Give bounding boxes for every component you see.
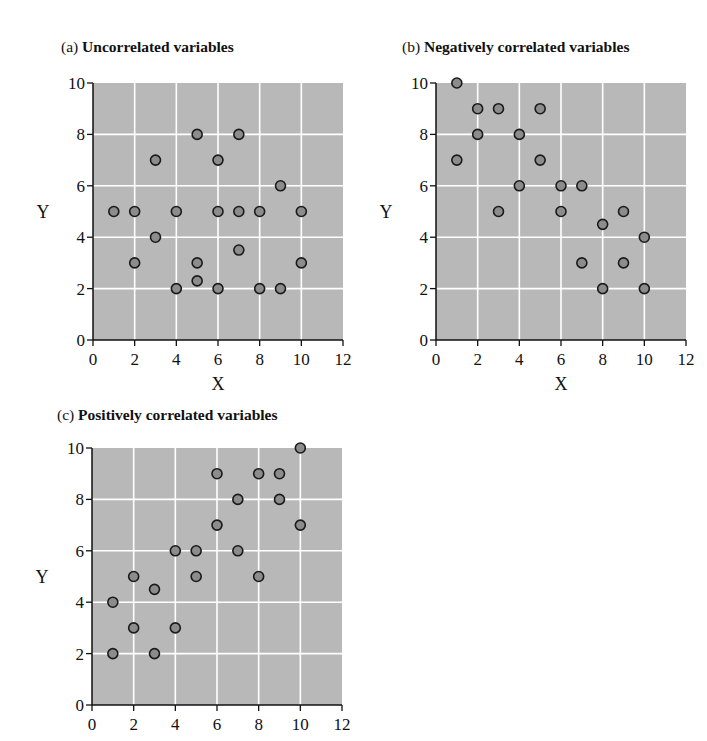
x-tick-label: 10 — [636, 350, 653, 369]
x-tick-label: 6 — [557, 350, 566, 369]
data-point — [535, 104, 545, 114]
data-point — [150, 649, 160, 659]
x-tick-label: 4 — [515, 350, 524, 369]
x-tick-label: 0 — [88, 715, 97, 734]
data-point — [275, 494, 285, 504]
data-point — [577, 258, 587, 268]
data-point — [150, 584, 160, 594]
data-point — [494, 104, 504, 114]
data-point — [108, 649, 118, 659]
data-point — [639, 284, 649, 294]
data-point — [452, 78, 462, 88]
data-point — [452, 155, 462, 165]
x-tick-label: 6 — [213, 715, 222, 734]
chart-panel-c: (c) Positively correlated variables 0246… — [0, 0, 360, 741]
y-tick-label: 8 — [76, 490, 85, 509]
y-axis-label: Y — [380, 202, 393, 222]
data-point — [233, 546, 243, 556]
data-point — [191, 546, 201, 556]
data-point — [598, 284, 608, 294]
y-tick-label: 6 — [420, 177, 429, 196]
y-tick-label: 2 — [420, 280, 429, 299]
data-point — [598, 219, 608, 229]
y-tick-label: 0 — [420, 331, 429, 350]
data-point — [212, 469, 222, 479]
data-point — [275, 469, 285, 479]
data-point — [494, 207, 504, 217]
x-tick-label: 2 — [129, 715, 138, 734]
y-tick-label: 4 — [420, 228, 429, 247]
data-point — [170, 546, 180, 556]
data-point — [254, 469, 264, 479]
data-point — [473, 129, 483, 139]
data-point — [556, 207, 566, 217]
data-point — [577, 181, 587, 191]
data-point — [129, 572, 139, 582]
data-point — [212, 520, 222, 530]
data-point — [619, 207, 629, 217]
data-point — [108, 597, 118, 607]
data-point — [514, 181, 524, 191]
data-point — [639, 232, 649, 242]
x-tick-label: 4 — [171, 715, 180, 734]
x-tick-label: 2 — [473, 350, 482, 369]
data-point — [514, 129, 524, 139]
y-tick-label: 8 — [420, 125, 429, 144]
data-point — [295, 520, 305, 530]
data-point — [233, 494, 243, 504]
y-tick-label: 4 — [76, 593, 85, 612]
x-tick-label: 8 — [254, 715, 263, 734]
y-tick-label: 10 — [67, 439, 84, 458]
y-tick-label: 6 — [76, 542, 85, 561]
scatter-plot-c: 0246810024681012Y — [0, 0, 360, 741]
data-point — [619, 258, 629, 268]
x-tick-label: 0 — [432, 350, 441, 369]
x-tick-label: 8 — [598, 350, 607, 369]
data-point — [556, 181, 566, 191]
data-point — [170, 623, 180, 633]
x-tick-label: 10 — [292, 715, 309, 734]
data-point — [129, 623, 139, 633]
y-tick-label: 10 — [411, 74, 428, 93]
data-point — [191, 572, 201, 582]
x-tick-label: 12 — [334, 715, 351, 734]
x-axis-label: X — [555, 374, 568, 394]
y-tick-label: 2 — [76, 645, 85, 664]
y-axis-label: Y — [36, 567, 49, 587]
data-point — [473, 104, 483, 114]
data-point — [535, 155, 545, 165]
y-tick-label: 0 — [76, 696, 85, 715]
data-point — [295, 443, 305, 453]
data-point — [254, 572, 264, 582]
x-tick-label: 12 — [678, 350, 695, 369]
